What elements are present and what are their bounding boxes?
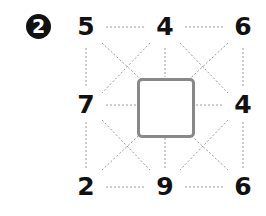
cell-middle-right: 4: [228, 90, 258, 120]
cell-top-middle: 4: [150, 12, 180, 42]
cell-middle-left: 7: [71, 90, 101, 120]
number-puzzle: 2 5 4 6 7 4 2 9 6: [0, 0, 266, 216]
cell-bottom-right: 6: [228, 172, 258, 202]
cell-top-right: 6: [228, 12, 258, 42]
cell-bottom-middle: 9: [150, 172, 180, 202]
center-answer-box[interactable]: [137, 78, 195, 138]
problem-number-badge: 2: [26, 14, 51, 39]
cell-top-left: 5: [71, 12, 101, 42]
cell-bottom-left: 2: [71, 172, 101, 202]
